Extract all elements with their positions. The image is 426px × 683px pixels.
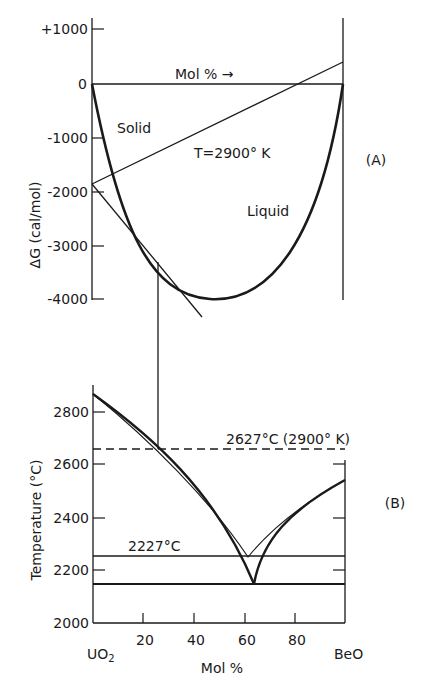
panel-b: 2800 2600 2400 2200 2000 20 40 60 80 UO2… [28,385,405,676]
ytick-label: 0 [78,76,87,92]
ytick-label: -4000 [47,291,88,307]
ideal-liquidus-curve [93,394,345,557]
xtick-label: 40 [187,632,205,648]
ytick-label: 2400 [53,510,89,526]
liquid-label: Liquid [247,203,289,219]
ytick-label: -3000 [47,238,88,254]
ytick-label: 2000 [53,615,89,631]
panel-b-y-axis-label: Temperature (°C) [28,460,44,582]
xtick-label: 60 [238,632,256,648]
panel-a-y-axis-label: ΔG (cal/mol) [27,182,43,269]
line-2227-label: 2227°C [128,538,181,554]
dashed-line-label: 2627°C (2900° K) [226,431,350,447]
ytick-label: -1000 [47,130,88,146]
xtick-label: 80 [288,632,306,648]
panel-b-x-ticks [143,613,295,623]
solid-label: Solid [117,120,151,136]
beo-liquidus-curve [254,480,345,584]
panel-a-label: (A) [366,152,387,168]
xtick-label: 20 [136,632,154,648]
ytick-label: -2000 [47,184,88,200]
ytick-label: 2200 [53,562,89,578]
panel-b-x-axis-label: Mol % [201,660,243,676]
figure-canvas: +1000 0 -1000 -2000 -3000 -4000 ΔG (cal/… [0,0,426,683]
temperature-label: T=2900° K [193,145,271,161]
ytick-label: 2800 [53,404,89,420]
top-axis-label: Mol % → [175,66,234,82]
panel-b-label: (B) [385,495,406,511]
left-component-label: UO2 [87,646,115,664]
ytick-label: 2600 [53,456,89,472]
panel-a: +1000 0 -1000 -2000 -3000 -4000 ΔG (cal/… [27,18,386,449]
tangent-line [92,184,202,317]
panel-a-ticks [92,29,104,299]
panel-b-y-ticks [93,412,105,570]
ytick-label: +1000 [41,21,88,37]
liquid-curve [92,84,343,299]
right-component-label: BeO [334,646,363,662]
